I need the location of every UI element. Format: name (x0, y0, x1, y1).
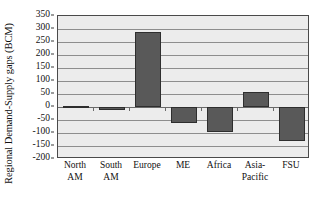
y-axis-tick-label: 100 (36, 75, 50, 85)
x-axis-category-label-line: Asia- (237, 160, 273, 172)
y-axis-tick-label: 250 (36, 36, 50, 46)
y-axis-tick-mark (51, 119, 54, 120)
y-axis-tick-mark (51, 158, 54, 159)
y-axis-tick-label: 350 (36, 10, 50, 20)
y-axis-tick-label: -150 (33, 140, 50, 150)
y-axis-tick-label: -50 (37, 114, 50, 124)
y-axis-tick-label: 300 (36, 23, 50, 33)
x-axis-category-label-line: South (93, 160, 129, 172)
x-axis-category-label: NorthAM (57, 160, 93, 183)
y-axis-tick-mark (51, 145, 54, 146)
bar (135, 32, 161, 107)
x-axis-category-label-line: North (57, 160, 93, 172)
bar (243, 92, 269, 107)
y-axis-tick-mark (51, 80, 54, 81)
y-axis-tick-mark (51, 28, 54, 29)
x-axis-category-label: FSU (273, 160, 309, 172)
bar-chart: Regional Demand-Supply gaps (BCM) 350300… (0, 0, 319, 207)
y-axis-tick-label: -200 (33, 153, 50, 163)
y-axis-tick-mark (51, 93, 54, 94)
bar-slot (94, 16, 130, 157)
x-axis-category-label-line: Africa (201, 160, 237, 172)
x-axis-category-label: Asia-Pacific (237, 160, 273, 183)
y-axis-tick-mark (51, 106, 54, 107)
x-axis-category-label-line: FSU (273, 160, 309, 172)
x-axis-category-label-line: Pacific (237, 172, 273, 184)
x-axis-category-label-line: ME (165, 160, 201, 172)
plot-area (57, 15, 309, 158)
bar-slot (58, 16, 94, 157)
x-axis-category-label-line: AM (57, 172, 93, 184)
bar-slot (238, 16, 274, 157)
x-axis-category-label: ME (165, 160, 201, 172)
y-axis-tick-mark (51, 54, 54, 55)
y-axis-tick-label: 0 (45, 101, 50, 111)
x-axis-category-label: Africa (201, 160, 237, 172)
bar-slot (166, 16, 202, 157)
y-axis-tick-mark (51, 15, 54, 16)
y-axis-tick-mark (51, 132, 54, 133)
x-axis-category-label-line: Europe (129, 160, 165, 172)
y-axis-tick-label: 150 (36, 62, 50, 72)
bar (99, 107, 125, 110)
x-axis-category-label: SouthAM (93, 160, 129, 183)
bar-slot (202, 16, 238, 157)
y-axis-tick-mark (51, 41, 54, 42)
y-axis-tick-mark (51, 67, 54, 68)
y-axis-tick-label: -100 (33, 127, 50, 137)
bar (63, 106, 89, 108)
bar (207, 107, 233, 132)
y-axis-title: Regional Demand-Supply gaps (BCM) (0, 0, 16, 207)
x-axis-category-label-line: AM (93, 172, 129, 184)
bar (171, 107, 197, 123)
y-axis-tick-label: 50 (41, 88, 51, 98)
y-axis-tick-labels: 350300250200150100500-50-100-150-200 (16, 15, 54, 158)
bar-slot (130, 16, 166, 157)
x-axis-category-labels: NorthAMSouthAMEuropeMEAfricaAsia-Pacific… (57, 160, 309, 204)
x-axis-category-label: Europe (129, 160, 165, 172)
bar-slot (274, 16, 309, 157)
bars-layer (58, 16, 308, 157)
bar (279, 107, 305, 141)
y-axis-tick-label: 200 (36, 49, 50, 59)
